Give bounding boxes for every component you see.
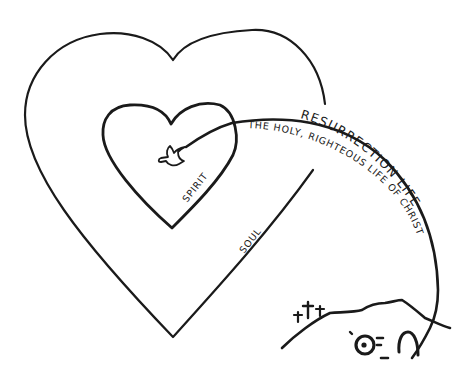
dove-icon: [159, 146, 185, 165]
outer-heart: [25, 30, 325, 337]
spirit-label: SPIRIT: [180, 170, 210, 204]
diagram-canvas: SPIRIT SOUL RESURRECTION LIFE THE HOLY, …: [0, 0, 475, 385]
empty-tomb-icon: [350, 332, 418, 358]
inner-heart: [103, 104, 236, 228]
